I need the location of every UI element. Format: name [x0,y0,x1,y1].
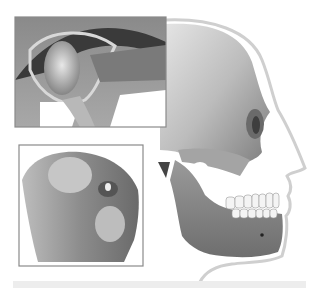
teeth [226,193,279,218]
anatomy-illustration [0,0,320,288]
mandible [170,160,283,257]
styloid-process [158,162,170,178]
condyle-inset [19,145,143,266]
joint-cross-section-inset [15,17,166,127]
mental-foramen [260,233,264,237]
eye-socket-inner [252,116,260,134]
jaw-joint [192,162,208,174]
caption-bar [13,281,306,288]
